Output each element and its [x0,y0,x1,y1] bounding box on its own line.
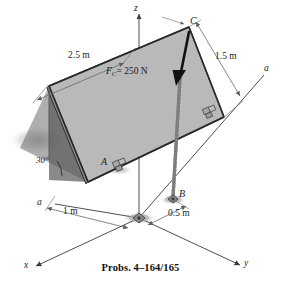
mechanics-diagram [0,0,281,284]
point-label-b: B [179,189,185,199]
dimension-label-1p5m: 1.5 m [215,52,237,62]
point-label-a: A [101,157,107,167]
dimension-label-2p5m: 2.5 m [68,51,90,61]
dim-leader-c [162,17,184,24]
axis-label-z: z [134,4,138,14]
force-label-fc: FC= 250 N [106,67,148,78]
dim-ext-1p5m-bot [224,101,243,117]
force-value: = 250 N [116,66,147,76]
dim-line-1m [47,208,128,228]
point-label-c: C [190,16,197,26]
figure-caption: Probs. 4–164/165 [0,262,281,273]
x-axis [36,218,139,266]
y-axis [139,218,240,265]
section-label-a-right: a [264,64,269,74]
angle-label-30deg: 30° [36,156,49,165]
figure-container: z x y C A B 2.5 m 1.5 m 1 m 0.5 m 30° a … [0,0,281,284]
dimension-label-0p5m: 0.5 m [168,209,190,219]
dimension-label-1m: 1 m [63,207,78,217]
section-label-a-left: a [37,198,42,208]
